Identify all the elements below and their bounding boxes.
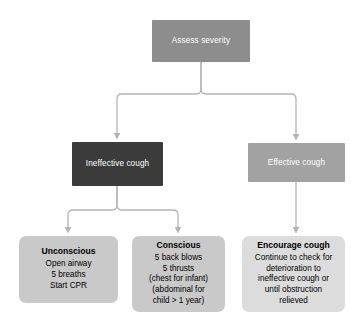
node-encourage-cough-lines: Continue to check fordeterioration toine… <box>255 253 332 307</box>
node-effective-cough-label: Effective cough <box>268 158 325 168</box>
node-encourage-cough[interactable]: Encourage cough Continue to check fordet… <box>242 236 345 312</box>
node-text-line: Open airway <box>46 259 92 270</box>
node-ineffective-cough[interactable]: Ineffective cough <box>72 142 163 186</box>
node-text-line: until obstruction <box>255 285 332 296</box>
node-ineffective-cough-label: Ineffective cough <box>86 159 149 169</box>
connector-ineffective-to-unconscious <box>68 186 117 230</box>
connector-assess-to-ineffective <box>117 62 201 136</box>
node-text-line: deterioration to <box>255 264 332 275</box>
node-text-line: Start CPR <box>46 281 92 292</box>
node-assess-severity-label: Assess severity <box>172 36 230 46</box>
node-conscious-heading: Conscious <box>157 240 201 251</box>
node-text-line: child > 1 year) <box>149 296 208 307</box>
node-unconscious-heading: Unconscious <box>42 246 96 257</box>
node-assess-severity[interactable]: Assess severity <box>152 20 250 62</box>
node-text-line: Continue to check for <box>255 253 332 264</box>
node-effective-cough[interactable]: Effective cough <box>248 143 345 182</box>
connector-ineffective-to-conscious <box>117 186 178 230</box>
node-text-line: 5 thrusts <box>149 264 208 275</box>
node-text-line: (abdominal for <box>149 285 208 296</box>
node-conscious[interactable]: Conscious 5 back blows5 thrusts(chest fo… <box>132 236 225 312</box>
node-unconscious[interactable]: Unconscious Open airway5 breathsStart CP… <box>19 236 118 303</box>
connector-assess-to-effective <box>201 62 296 137</box>
node-text-line: 5 back blows <box>149 253 208 264</box>
node-conscious-lines: 5 back blows5 thrusts(chest for infant)(… <box>149 253 208 307</box>
node-text-line: ineffective cough or <box>255 274 332 285</box>
node-text-line: relieved <box>255 296 332 307</box>
node-unconscious-lines: Open airway5 breathsStart CPR <box>46 259 92 291</box>
flowchart-canvas: Assess severity Ineffective cough Effect… <box>0 0 351 320</box>
node-text-line: 5 breaths <box>46 270 92 281</box>
node-text-line: (chest for infant) <box>149 274 208 285</box>
node-encourage-cough-heading: Encourage cough <box>257 240 330 251</box>
